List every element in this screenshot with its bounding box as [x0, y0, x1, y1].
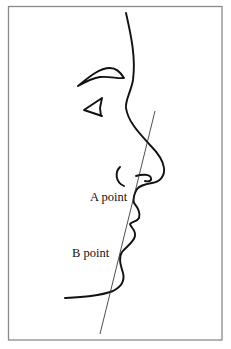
nasal-ala-contour	[117, 167, 124, 186]
forehead-nose-contour	[126, 13, 164, 189]
eyebrow-contour	[78, 68, 124, 86]
profile-diagram: A point B point	[0, 0, 231, 349]
reference-line	[100, 111, 155, 334]
eye-contour	[84, 98, 102, 116]
a-point-label: A point	[90, 190, 128, 204]
b-point-label: B point	[72, 246, 110, 260]
lips-chin-contour	[65, 189, 140, 298]
